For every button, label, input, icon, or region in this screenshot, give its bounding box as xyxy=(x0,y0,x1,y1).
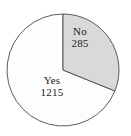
pie-chart-graphic xyxy=(0,0,131,136)
pie-chart-figure: No 285 Yes 1215 xyxy=(0,0,131,136)
pie-slice-yes-label: Yes 1215 xyxy=(22,75,82,99)
pie-slice-no-label-value: 285 xyxy=(58,38,102,50)
pie-slice-no-label: No 285 xyxy=(58,26,102,50)
pie-slice-yes-label-value: 1215 xyxy=(22,87,82,99)
